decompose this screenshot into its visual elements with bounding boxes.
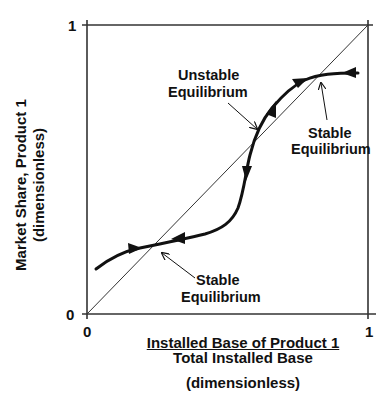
label-stable-upper-2: Equilibrium xyxy=(291,141,371,157)
y-axis-label-line1: Market Share, Product 1 xyxy=(12,60,30,310)
label-stable-lower-1: Stable xyxy=(196,272,240,288)
label-stable-upper-1: Stable xyxy=(308,125,352,141)
annotation-stable-upper: Stable Equilibrium xyxy=(291,83,371,157)
label-stable-lower-2: Equilibrium xyxy=(181,289,261,305)
arrow-left-icon xyxy=(342,67,356,78)
pointer-arrow-icon xyxy=(228,103,257,129)
annotation-unstable: Unstable Equilibrium xyxy=(168,67,257,129)
pointer-arrow-icon xyxy=(321,83,327,120)
x-tick-0: 0 xyxy=(83,323,91,340)
x-axis-label-units: (dimensionless) xyxy=(118,375,368,390)
annotation-stable-lower: Stable Equilibrium xyxy=(162,253,261,305)
label-unstable-2: Equilibrium xyxy=(168,84,248,100)
y-tick-1: 1 xyxy=(68,17,76,34)
arrow-down-icon xyxy=(242,166,252,181)
label-unstable-1: Unstable xyxy=(178,67,239,83)
x-axis-label: Installed Base of Product 1 Total Instal… xyxy=(118,335,368,390)
diagram-canvas: 1 0 0 1 Unstable Equilibrium Stable Equi… xyxy=(0,0,392,398)
y-axis-label-line2: (dimensionless) xyxy=(30,60,48,310)
arrow-right-icon xyxy=(128,243,142,254)
pointer-arrow-icon xyxy=(162,253,195,278)
y-axis-label: Market Share, Product 1 (dimensionless) xyxy=(12,60,72,310)
x-axis-label-denominator: Total Installed Base xyxy=(173,349,313,366)
market-share-curve xyxy=(96,73,358,269)
